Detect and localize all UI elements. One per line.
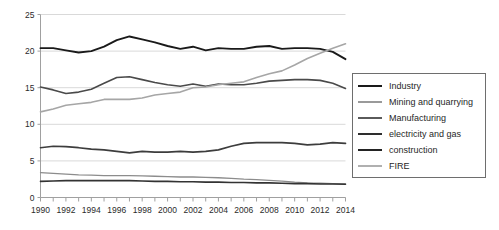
x-tick-label: 1996 — [107, 205, 126, 215]
legend-swatch-icon — [358, 165, 382, 167]
legend-item[interactable]: electricity and gas — [358, 126, 480, 142]
series-line-industry — [41, 36, 346, 59]
x-tick-label: 2006 — [234, 205, 253, 215]
series-line-fire — [41, 44, 346, 112]
legend-item[interactable]: Mining and quarrying — [358, 94, 480, 110]
legend-item[interactable]: Manufacturing — [358, 110, 480, 126]
x-tick-label: 2002 — [184, 205, 203, 215]
series-line-manufacturing — [41, 77, 346, 94]
y-axis-tick-labels: 0510152025 — [25, 10, 35, 203]
y-tick-label: 0 — [30, 193, 35, 203]
chart-legend: IndustryMining and quarryingManufacturin… — [352, 73, 486, 178]
x-tick-label: 2012 — [311, 205, 330, 215]
x-tick-label: 1998 — [133, 205, 152, 215]
x-tick-label: 2008 — [260, 205, 279, 215]
legend-item-label: Mining and quarrying — [389, 98, 473, 107]
data-series-group — [41, 36, 346, 184]
legend-swatch-icon — [358, 101, 382, 103]
y-tick-label: 5 — [30, 156, 35, 166]
legend-item-label: FIRE — [389, 162, 410, 171]
y-tick-label: 25 — [25, 10, 35, 20]
x-axis-ticks — [41, 198, 346, 202]
gridlines — [41, 15, 346, 198]
x-tick-label: 2014 — [336, 205, 355, 215]
legend-item[interactable]: Industry — [358, 78, 480, 94]
legend-swatch-icon — [358, 149, 382, 151]
legend-swatch-icon — [358, 133, 382, 135]
x-axis-tick-labels: 1990199219941996199820002002200420062008… — [31, 205, 355, 215]
x-tick-label: 1992 — [56, 205, 75, 215]
y-tick-label: 10 — [25, 119, 35, 129]
x-tick-label: 1994 — [82, 205, 101, 215]
legend-item[interactable]: FIRE — [358, 158, 480, 174]
y-tick-label: 20 — [25, 46, 35, 56]
legend-item[interactable]: construction — [358, 142, 480, 158]
chart-figure: 0510152025 19901992199419961998200020022… — [0, 0, 499, 230]
x-tick-label: 2004 — [209, 205, 228, 215]
series-line-construction — [41, 143, 346, 153]
legend-item-label: construction — [389, 146, 438, 155]
x-tick-label: 2000 — [158, 205, 177, 215]
legend-swatch-icon — [358, 85, 382, 87]
x-tick-label: 2010 — [285, 205, 304, 215]
legend-item-label: electricity and gas — [389, 130, 461, 139]
legend-item-label: Industry — [389, 82, 421, 91]
x-tick-label: 1990 — [31, 205, 50, 215]
y-tick-label: 15 — [25, 83, 35, 93]
axis-lines — [41, 15, 346, 198]
legend-swatch-icon — [358, 117, 382, 119]
legend-item-label: Manufacturing — [389, 114, 446, 123]
